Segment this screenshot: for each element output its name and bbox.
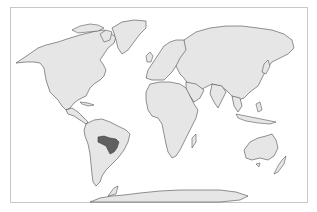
- central-america: [66, 108, 88, 124]
- antarctic-peninsula: [108, 186, 118, 196]
- caribbean-islands: [80, 102, 94, 106]
- australia: [244, 134, 278, 160]
- greenland: [112, 20, 146, 54]
- map-caption: [0, 203, 317, 212]
- south-america: [84, 119, 130, 186]
- madagascar: [192, 134, 196, 148]
- north-america: [16, 30, 116, 110]
- indonesia: [236, 114, 276, 124]
- new-zealand: [274, 156, 286, 174]
- british-isles: [146, 52, 153, 62]
- philippines: [256, 102, 262, 112]
- tasmania: [256, 163, 260, 167]
- world-map: [0, 0, 317, 212]
